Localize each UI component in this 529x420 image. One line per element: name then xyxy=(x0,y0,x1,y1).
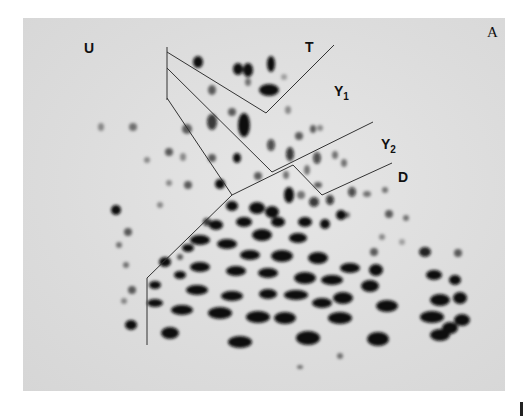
protein-spot xyxy=(228,108,236,116)
protein-spot xyxy=(193,56,203,68)
protein-spot xyxy=(420,311,444,323)
protein-spot xyxy=(320,219,330,229)
label-Y2: Y2 xyxy=(381,137,396,155)
protein-spot xyxy=(317,125,323,131)
protein-spot xyxy=(340,263,360,273)
protein-spot xyxy=(310,125,316,133)
protein-spot xyxy=(180,153,186,161)
gel-overlay xyxy=(0,0,529,420)
protein-spot xyxy=(254,172,262,180)
protein-spot xyxy=(312,298,332,308)
protein-spot xyxy=(228,336,252,348)
protein-spot xyxy=(238,113,250,137)
protein-spot xyxy=(337,353,343,359)
protein-spot xyxy=(304,165,310,175)
protein-spot xyxy=(190,235,210,245)
protein-spot xyxy=(125,320,137,330)
gel-figure: U T Y1 Y2 D A xyxy=(0,0,529,420)
protein-spot xyxy=(129,123,137,131)
protein-spot xyxy=(184,181,192,189)
protein-spot xyxy=(186,285,208,295)
protein-spot xyxy=(236,217,252,227)
protein-spot xyxy=(226,201,238,211)
protein-spot xyxy=(123,262,129,268)
protein-spot xyxy=(98,123,104,131)
protein-spot xyxy=(403,215,409,221)
protein-spot xyxy=(399,239,405,245)
protein-spot xyxy=(336,210,346,220)
protein-spot xyxy=(361,280,379,292)
left-lower-boundary xyxy=(147,195,232,345)
protein-spot xyxy=(274,312,296,324)
protein-spot xyxy=(165,148,173,156)
protein-spot xyxy=(369,264,383,276)
protein-spot xyxy=(379,234,385,240)
protein-spot xyxy=(161,327,179,339)
protein-spot xyxy=(321,275,343,285)
protein-spot xyxy=(267,139,275,151)
protein-spot xyxy=(341,159,347,167)
cropped-panel-mark xyxy=(520,402,523,416)
protein-spot xyxy=(177,254,183,260)
protein-spot xyxy=(221,291,243,301)
protein-spot xyxy=(233,153,241,163)
protein-spot xyxy=(208,85,216,95)
protein-spot xyxy=(217,239,237,249)
protein-spot xyxy=(245,78,251,86)
protein-spot xyxy=(363,191,371,197)
protein-spot xyxy=(174,271,186,279)
protein-spot xyxy=(271,217,285,227)
label-U: U xyxy=(84,41,94,55)
protein-spot xyxy=(419,247,431,257)
protein-spot xyxy=(333,292,353,304)
protein-spots xyxy=(98,56,470,369)
panel-label: A xyxy=(487,24,498,41)
protein-spot xyxy=(449,275,461,285)
protein-spot xyxy=(298,217,312,227)
protein-spot xyxy=(308,252,328,264)
protein-spot xyxy=(128,286,136,294)
protein-spot xyxy=(259,84,279,96)
protein-spot xyxy=(426,270,442,280)
protein-spot xyxy=(157,202,163,208)
protein-spot xyxy=(297,365,303,369)
protein-spot xyxy=(296,331,320,345)
protein-spot xyxy=(328,312,352,324)
protein-spot xyxy=(367,332,389,346)
label-Y1: Y1 xyxy=(334,84,349,102)
protein-spot xyxy=(159,257,171,267)
protein-spot xyxy=(116,242,122,248)
protein-spot xyxy=(309,197,319,207)
protein-spot xyxy=(190,262,210,272)
protein-spot xyxy=(271,250,293,262)
protein-spot xyxy=(442,322,458,334)
protein-spot xyxy=(284,290,308,300)
label-T: T xyxy=(305,40,314,54)
protein-spot xyxy=(284,187,294,203)
protein-spot xyxy=(249,202,265,214)
protein-spot xyxy=(166,180,172,186)
protein-spot xyxy=(281,74,287,80)
protein-spot xyxy=(215,179,225,189)
protein-spot xyxy=(370,248,378,256)
protein-spot xyxy=(285,106,291,114)
label-D: D xyxy=(398,170,408,184)
protein-spot xyxy=(289,233,307,243)
protein-spot xyxy=(332,151,338,159)
protein-spot xyxy=(144,157,150,163)
protein-spot xyxy=(209,220,223,230)
protein-spot xyxy=(252,229,272,241)
protein-spot xyxy=(240,250,260,260)
protein-spot xyxy=(226,266,246,276)
protein-spot xyxy=(265,206,279,218)
protein-spot xyxy=(382,187,388,193)
protein-spot xyxy=(286,147,294,161)
protein-spot xyxy=(314,182,322,188)
protein-spot xyxy=(313,152,321,164)
protein-spot xyxy=(243,63,253,77)
T-bracket xyxy=(167,45,334,113)
protein-spot xyxy=(385,210,393,218)
protein-spot xyxy=(121,298,127,304)
protein-spot xyxy=(182,244,194,252)
protein-spot xyxy=(297,191,305,199)
